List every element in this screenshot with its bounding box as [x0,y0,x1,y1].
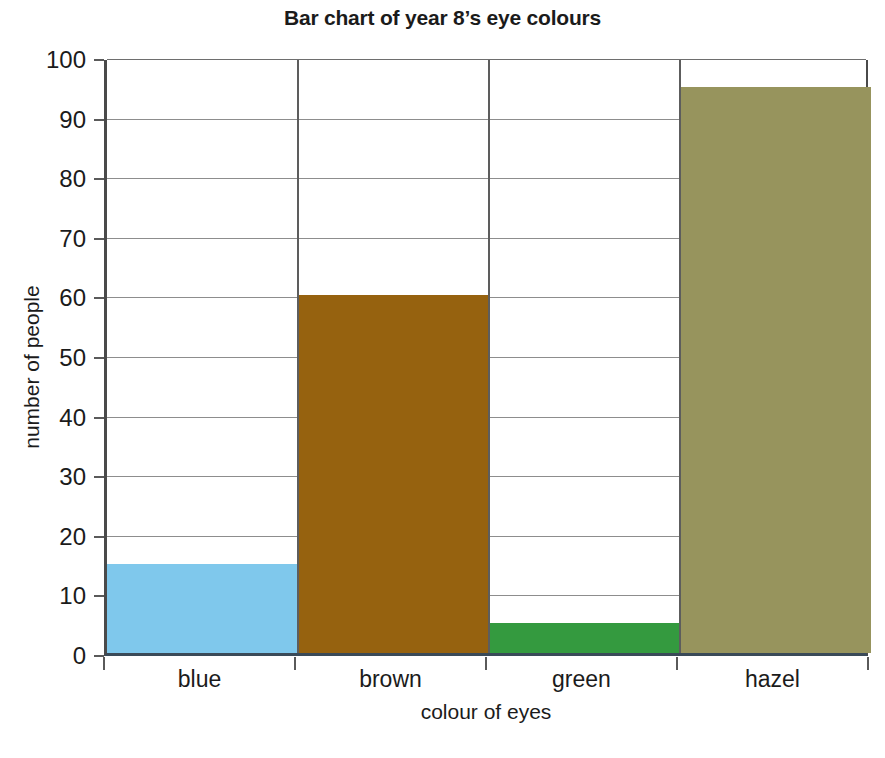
category-divider [297,60,299,653]
bar-brown[interactable] [298,295,489,653]
y-tick-label: 30 [10,465,86,489]
y-tick-label: 10 [10,584,86,608]
category-divider [679,60,681,653]
y-tick-mark [94,476,104,478]
bar-chart-figure: Bar chart of year 8’s eye colours number… [0,0,885,758]
x-tick-mark [867,657,869,670]
y-tick-label: 40 [10,406,86,430]
x-tick-label-green: green [486,666,677,693]
bar-green[interactable] [489,623,680,653]
bar-blue[interactable] [107,564,298,653]
y-tick-label: 100 [10,48,86,72]
gridline [107,59,866,60]
y-tick-mark [94,417,104,419]
y-tick-label: 90 [10,108,86,132]
y-tick-mark [94,59,104,61]
y-tick-mark [94,119,104,121]
y-tick-mark [94,595,104,597]
y-tick-mark [94,238,104,240]
category-divider [488,60,490,653]
y-tick-label: 20 [10,525,86,549]
y-tick-mark [94,536,104,538]
y-tick-mark [94,178,104,180]
y-tick-mark [94,357,104,359]
x-axis-title: colour of eyes [104,700,868,724]
y-tick-label: 60 [10,286,86,310]
y-tick-label: 80 [10,167,86,191]
bar-hazel[interactable] [680,87,871,653]
y-tick-label: 0 [10,644,86,668]
x-tick-label-brown: brown [295,666,486,693]
plot-area [104,60,868,656]
y-tick-mark [94,297,104,299]
x-tick-label-hazel: hazel [677,666,868,693]
chart-title: Bar chart of year 8’s eye colours [0,6,885,30]
x-tick-label-blue: blue [104,666,295,693]
y-tick-label: 70 [10,227,86,251]
y-tick-label: 50 [10,346,86,370]
